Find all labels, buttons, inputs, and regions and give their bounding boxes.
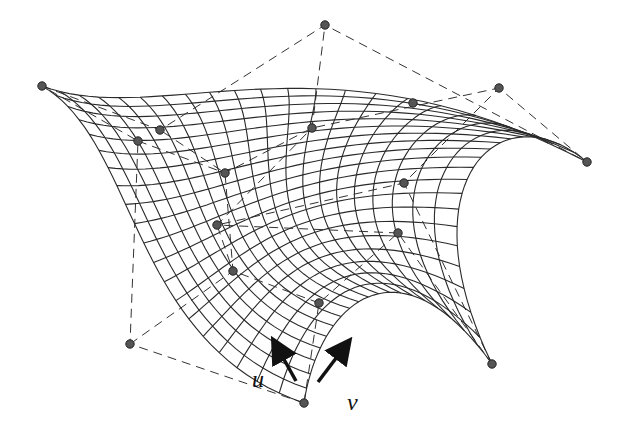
- control-point: [308, 124, 316, 132]
- control-point: [221, 169, 229, 177]
- control-points: [38, 21, 591, 407]
- u-direction-arrow-icon: [276, 345, 296, 381]
- control-point: [321, 21, 329, 29]
- control-point: [300, 399, 308, 407]
- control-point: [156, 126, 164, 134]
- control-point: [229, 267, 237, 275]
- control-point: [400, 179, 408, 187]
- control-point: [583, 158, 591, 166]
- surface-mesh: [42, 86, 587, 403]
- control-point: [213, 221, 221, 229]
- control-point: [394, 229, 402, 237]
- control-point: [488, 360, 496, 368]
- control-point: [409, 99, 417, 107]
- control-point: [315, 299, 323, 307]
- v-axis-label: v: [347, 389, 358, 416]
- control-point: [134, 137, 142, 145]
- control-point: [126, 340, 134, 348]
- parameter-arrows: [276, 345, 346, 382]
- v-direction-arrow-icon: [318, 345, 346, 382]
- control-point: [38, 82, 46, 90]
- u-axis-label: u: [252, 366, 264, 393]
- bezier-surface-figure: [0, 0, 623, 432]
- control-point: [495, 84, 503, 92]
